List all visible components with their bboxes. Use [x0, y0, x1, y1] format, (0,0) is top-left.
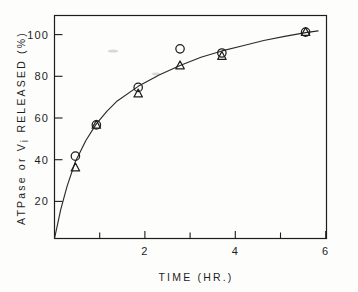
- plot-frame: [55, 16, 327, 239]
- data-point-triangle: [71, 163, 79, 171]
- scan-speck: [108, 50, 118, 53]
- y-axis-title-tail: RELEASED (%): [15, 31, 27, 138]
- y-axis-ticks: [55, 35, 63, 202]
- x-tick-label-2: 2: [141, 245, 148, 257]
- series-atpase-markers: [71, 28, 310, 160]
- x-axis-title: TIME (HR.): [158, 271, 233, 283]
- x-tick-label-6: 6: [322, 245, 329, 257]
- data-point-circle: [176, 45, 184, 53]
- series-vi-markers: [71, 28, 310, 171]
- y-tick-label-80: 80: [35, 70, 49, 82]
- x-axis-ticks: [100, 231, 326, 239]
- x-axis-tick-labels: 2 4 6: [141, 245, 329, 257]
- y-tick-label-40: 40: [35, 154, 49, 166]
- y-axis-tick-labels: 100 80 60 40 20: [27, 29, 49, 208]
- y-axis-title-main: ATPase or V: [15, 142, 27, 225]
- y-axis-title-group: ATPase or Vi RELEASED (%): [15, 31, 30, 225]
- scatter-plot: 100 80 60 40 20 2 4 6 TIME (HR.): [0, 0, 358, 292]
- y-axis-title: ATPase or Vi RELEASED (%): [15, 31, 30, 225]
- x-tick-label-4: 4: [232, 245, 239, 257]
- fitted-curve: [55, 31, 319, 239]
- y-tick-label-20: 20: [35, 195, 49, 207]
- figure-container: 100 80 60 40 20 2 4 6 TIME (HR.): [0, 0, 358, 292]
- y-tick-label-60: 60: [35, 112, 49, 124]
- y-tick-label-100: 100: [27, 29, 49, 41]
